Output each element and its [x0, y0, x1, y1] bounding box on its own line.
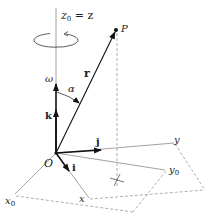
i-label: i [72, 163, 76, 173]
x0-label: x0 [5, 196, 15, 208]
x-label: x [79, 194, 85, 204]
j-label: j [96, 137, 100, 147]
i-vector [56, 153, 69, 171]
y-label: y [174, 135, 180, 145]
j-vector [56, 150, 101, 153]
y0-label: y0 [169, 165, 179, 177]
r-label: r [84, 68, 90, 79]
origin-dot [54, 151, 57, 154]
diagram-canvas: z0 = z ω k α r P j i O y y0 x0 x [0, 0, 221, 222]
z-axis-label: z0 = z [61, 10, 93, 23]
diagram-svg [0, 0, 221, 222]
point-P [114, 28, 118, 32]
P-label: P [121, 24, 128, 34]
omega-label: ω [45, 74, 53, 84]
alpha-label: α [68, 84, 75, 94]
r-vector [56, 32, 115, 153]
k-label: k [45, 111, 52, 121]
origin-label: O [44, 158, 53, 169]
